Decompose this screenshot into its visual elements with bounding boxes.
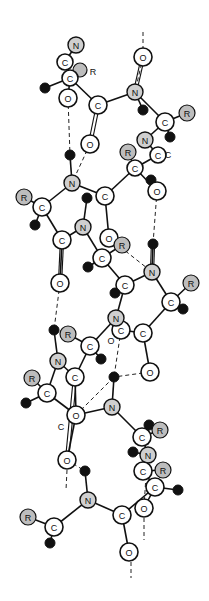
atom-label: C bbox=[59, 236, 66, 246]
atom-c: C bbox=[53, 231, 71, 249]
atom-label: C bbox=[72, 373, 79, 383]
atom-o: O bbox=[67, 406, 85, 424]
atom-r: R bbox=[114, 237, 130, 253]
atom-c: C bbox=[150, 147, 166, 163]
atom-label: C bbox=[140, 329, 147, 339]
atom-o: O bbox=[51, 274, 69, 292]
atom-label: C bbox=[139, 433, 146, 443]
atom-h bbox=[30, 220, 40, 230]
atom-r: R bbox=[24, 370, 40, 386]
atom-h bbox=[110, 288, 120, 298]
alpha-helix-diagram: NCCOCONCRONCRCONRCCNCORCNROCCCNCRCNCORCN… bbox=[0, 0, 209, 601]
atom-c: C bbox=[33, 198, 51, 216]
atom-label: O bbox=[64, 94, 71, 104]
atom-o: O bbox=[148, 182, 166, 200]
atom-label: N bbox=[73, 41, 80, 51]
atom-o: O bbox=[81, 135, 99, 153]
atom-label: N bbox=[132, 88, 139, 98]
atom-o: O bbox=[141, 363, 159, 381]
atom-r: R bbox=[60, 326, 76, 342]
atom-label: C bbox=[132, 164, 139, 174]
atom-label: O bbox=[56, 279, 63, 289]
atom-label: N bbox=[109, 403, 116, 413]
atom-label: N bbox=[142, 136, 149, 146]
atom-label: N bbox=[55, 357, 62, 367]
atom-label: C bbox=[140, 467, 147, 477]
atom-label: C bbox=[95, 101, 102, 111]
atom-c: C bbox=[127, 160, 143, 176]
atom-n: N bbox=[64, 175, 80, 191]
atom-h bbox=[83, 262, 93, 272]
atom-h bbox=[178, 304, 188, 314]
atom-label: R bbox=[29, 374, 36, 384]
atom-annotation: C bbox=[58, 422, 65, 432]
atom-r: R bbox=[20, 509, 36, 525]
atom-c: C bbox=[162, 293, 180, 311]
atom-label: R bbox=[157, 426, 164, 436]
atom-annotation: R bbox=[90, 67, 97, 77]
atom-h bbox=[138, 105, 148, 115]
atom-c: C bbox=[93, 249, 111, 267]
atom-o: O bbox=[59, 89, 77, 107]
atom-r: R bbox=[120, 144, 136, 160]
atom-label: N bbox=[145, 451, 152, 461]
atom-n: N bbox=[50, 353, 66, 369]
atom-label: R bbox=[184, 109, 191, 119]
helix-continuation-lines bbox=[66, 32, 144, 578]
atom-n: N bbox=[75, 219, 91, 235]
atom-label: R bbox=[188, 279, 195, 289]
atom-label: O bbox=[153, 187, 160, 197]
atom-c: C bbox=[81, 337, 99, 355]
atom-c: C bbox=[146, 478, 164, 496]
atom-o: O bbox=[58, 451, 76, 469]
atom-n: N bbox=[80, 492, 96, 508]
atom-label: N bbox=[149, 268, 156, 278]
atom-h bbox=[65, 150, 75, 160]
atom-label: N bbox=[113, 314, 120, 324]
atom-c: C bbox=[133, 428, 151, 446]
atom-h bbox=[173, 485, 183, 495]
atom-c: C bbox=[57, 54, 73, 70]
atom-r: R bbox=[155, 462, 171, 478]
atom-r: R bbox=[179, 105, 195, 121]
atom-h bbox=[96, 354, 106, 364]
atom-n: N bbox=[104, 399, 120, 415]
atom-annotation: O bbox=[107, 336, 114, 346]
atom-o: O bbox=[134, 48, 152, 66]
atom-label: C bbox=[87, 342, 94, 352]
atom-n: N bbox=[127, 84, 143, 100]
atom-label: R bbox=[21, 193, 28, 203]
helix-tail-line bbox=[66, 470, 67, 490]
atom-label: R bbox=[160, 466, 167, 476]
atom-label: C bbox=[39, 203, 46, 213]
atom-h bbox=[21, 398, 31, 408]
atom-o: O bbox=[135, 499, 153, 517]
atom-c: C bbox=[134, 324, 152, 342]
atom-label: N bbox=[85, 496, 92, 506]
atom-c: C bbox=[113, 506, 131, 524]
atom-h bbox=[40, 83, 50, 93]
atom-label: C bbox=[152, 483, 159, 493]
atom-label: R bbox=[25, 513, 32, 523]
atom-label: C bbox=[162, 118, 169, 128]
atom-n: N bbox=[144, 264, 160, 280]
atom-label: O bbox=[140, 504, 147, 514]
atom-label: C bbox=[168, 298, 175, 308]
atom-label: C bbox=[51, 523, 58, 533]
atom-label: C bbox=[62, 58, 69, 68]
atom-n: N bbox=[140, 447, 156, 463]
atom-label: O bbox=[139, 53, 146, 63]
atom-label: O bbox=[125, 548, 132, 558]
atom-label: O bbox=[63, 456, 70, 466]
atom-label: R bbox=[65, 330, 72, 340]
atom-h bbox=[128, 447, 138, 457]
atoms: NCCOCONCRONCRCONRCCNCORCNROCCCNCRCNCORCN… bbox=[16, 37, 199, 561]
atom-n: N bbox=[137, 132, 153, 148]
atom-c: C bbox=[96, 187, 114, 205]
atom-label: C bbox=[102, 192, 109, 202]
atom-o: O bbox=[120, 543, 138, 561]
atom-label: O bbox=[72, 411, 79, 421]
atom-label: R bbox=[125, 148, 132, 158]
atom-c: C bbox=[62, 70, 78, 86]
atom-label: C bbox=[155, 151, 162, 161]
